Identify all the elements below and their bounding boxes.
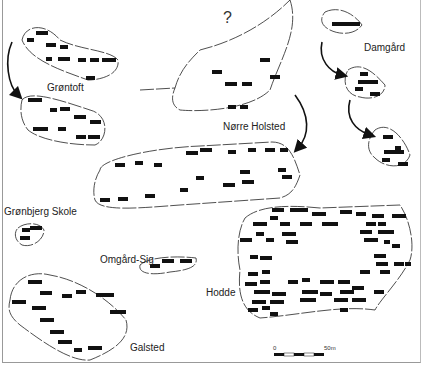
arrow-damgard-1 <box>321 42 342 75</box>
hodde-label: Hodde <box>206 287 235 298</box>
gronbjerg-skole-label: Grønbjerg Skole <box>4 206 77 217</box>
scale-end-label: 50m <box>324 345 336 351</box>
arrow-grontoft <box>8 42 18 95</box>
galsted-outline <box>9 274 127 360</box>
scale-bar <box>274 353 324 356</box>
arrow-norre-holsted <box>295 95 307 148</box>
damgard-label: Damgård <box>364 42 405 53</box>
scale-start-label: 0 <box>273 345 276 351</box>
arrow-damgard-2 <box>349 100 370 135</box>
norre-holsted-label: Nørre Holsted <box>223 121 285 132</box>
grontoft-label: Grøntoft <box>47 82 84 93</box>
unknown-settlement-outline <box>140 0 293 111</box>
unknown-settlement-label: ? <box>223 9 232 27</box>
damgard-1-outline <box>322 10 362 34</box>
building-blocks <box>12 22 411 352</box>
plans-drawing <box>0 0 424 368</box>
omgard-sig-label: Omgård-Sig <box>100 254 154 265</box>
galsted-label: Galsted <box>130 342 164 353</box>
settlement-plans-figure: ? Grøntoft Damgård Nørre Holsted Grønbje… <box>0 0 424 368</box>
grontoft-early-outline <box>22 28 118 80</box>
